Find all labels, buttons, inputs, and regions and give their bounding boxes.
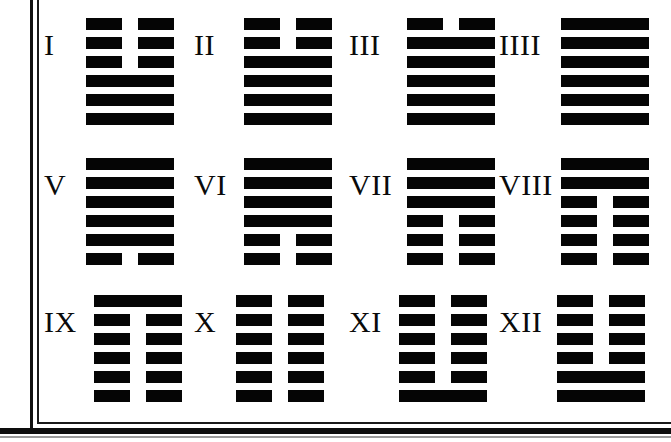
hexagram-line-solid (407, 177, 495, 189)
line-segment (288, 352, 324, 364)
line-segment (561, 196, 597, 208)
hexagram-line-broken (561, 234, 649, 246)
hexagram-line-broken (236, 371, 324, 383)
line-segment (86, 56, 122, 68)
hexagram-line-solid (557, 371, 645, 383)
line-segment (451, 314, 487, 326)
hexagram-cell: I (44, 18, 174, 125)
line-segment (86, 37, 122, 49)
line-segment (94, 390, 130, 402)
line-segment (557, 314, 593, 326)
border-rule-bottom-outer (0, 428, 671, 434)
hexagram-line-broken (86, 56, 174, 68)
hexagram-cell: XI (349, 295, 487, 402)
line-segment (244, 75, 332, 87)
hexagram-line-solid (407, 37, 495, 49)
hexagram-line-solid (244, 113, 332, 125)
line-segment (86, 94, 174, 106)
hexagram-line-solid (407, 113, 495, 125)
line-segment (399, 295, 435, 307)
hexagram-figure (561, 18, 649, 125)
hexagram-line-solid (407, 94, 495, 106)
line-segment (86, 215, 174, 227)
line-segment (296, 253, 332, 265)
hexagram-line-solid (86, 215, 174, 227)
hexagram-line-broken (561, 196, 649, 208)
line-segment (244, 158, 332, 170)
line-segment (296, 18, 332, 30)
hexagram-line-solid (244, 177, 332, 189)
line-segment (407, 177, 495, 189)
line-segment (609, 352, 645, 364)
hexagram-numeral: X (194, 295, 236, 337)
line-segment (244, 196, 332, 208)
hexagram-line-solid (86, 94, 174, 106)
line-segment (146, 314, 182, 326)
line-segment (244, 94, 332, 106)
hexagram-line-solid (399, 390, 487, 402)
hexagram-line-broken (94, 333, 182, 345)
hexagram-line-solid (94, 295, 182, 307)
hexagram-line-broken (236, 295, 324, 307)
line-segment (94, 352, 130, 364)
line-segment (244, 234, 280, 246)
hexagram-line-broken (399, 371, 487, 383)
line-segment (138, 253, 174, 265)
line-segment (407, 75, 495, 87)
hexagram-cell: VI (194, 158, 332, 265)
hexagram-line-solid (407, 158, 495, 170)
hexagram-figure (86, 18, 174, 125)
hexagram-line-solid (561, 75, 649, 87)
hexagram-figure (557, 295, 645, 402)
hexagram-line-broken (407, 215, 495, 227)
hexagram-line-broken (236, 333, 324, 345)
line-segment (557, 295, 593, 307)
line-segment (138, 56, 174, 68)
hexagram-line-solid (244, 158, 332, 170)
hexagram-line-solid (86, 196, 174, 208)
hexagram-line-broken (407, 253, 495, 265)
line-segment (407, 253, 443, 265)
hexagram-figure (94, 295, 182, 402)
hexagram-line-solid (561, 177, 649, 189)
line-segment (244, 18, 280, 30)
line-segment (557, 390, 645, 402)
line-segment (459, 234, 495, 246)
line-segment (561, 177, 649, 189)
line-segment (138, 18, 174, 30)
line-segment (236, 371, 272, 383)
hexagram-line-solid (244, 215, 332, 227)
hexagram-cell: II (194, 18, 332, 125)
hexagram-line-broken (236, 352, 324, 364)
hexagram-line-solid (561, 37, 649, 49)
line-segment (236, 390, 272, 402)
hexagram-cell: IIII (499, 18, 649, 125)
hexagram-line-broken (244, 37, 332, 49)
hexagram-line-solid (244, 196, 332, 208)
border-rule-left-outer (30, 0, 33, 430)
line-segment (613, 196, 649, 208)
hexagram-line-broken (557, 314, 645, 326)
hexagram-cell: IX (44, 295, 182, 402)
line-segment (451, 352, 487, 364)
line-segment (407, 18, 443, 30)
line-segment (244, 56, 332, 68)
line-segment (94, 295, 182, 307)
hexagram-line-broken (86, 18, 174, 30)
hexagram-figure (86, 158, 174, 265)
hexagram-line-broken (244, 18, 332, 30)
hexagram-line-broken (244, 253, 332, 265)
hexagram-numeral: XI (349, 295, 399, 337)
line-segment (288, 390, 324, 402)
hexagram-numeral: II (194, 18, 244, 60)
hexagram-line-solid (244, 94, 332, 106)
line-segment (399, 371, 435, 383)
hexagram-line-broken (407, 234, 495, 246)
hexagram-line-solid (407, 56, 495, 68)
hexagram-figure (244, 18, 332, 125)
hexagram-grid: IIIIIIIIIIVVIVIIVIIIIXXXIXII (44, 0, 671, 420)
hexagram-cell: III (349, 18, 495, 125)
line-segment (407, 196, 495, 208)
hexagram-numeral: IIII (499, 18, 561, 60)
hexagram-line-solid (86, 113, 174, 125)
